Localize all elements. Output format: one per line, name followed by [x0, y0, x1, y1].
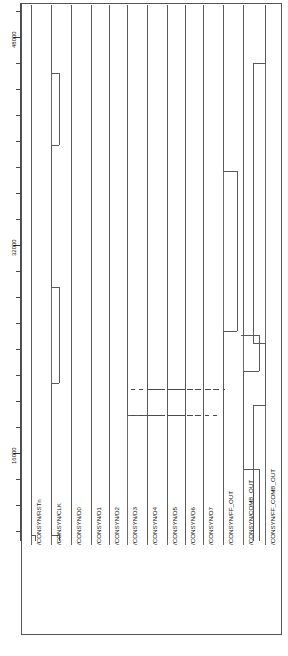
axis-tick: [16, 349, 21, 350]
signal-label-d7: /CONSYN/D7: [207, 507, 214, 545]
level-run: [59, 287, 60, 383]
axis-tick: [16, 531, 21, 532]
transition-edge: [51, 383, 59, 384]
axis-tick: [16, 479, 21, 480]
level-run: [51, 145, 52, 287]
axis-tick-label-48000: 48000: [11, 31, 17, 48]
signal-label-comb-out: /CONSYN/COMB_OUT: [247, 480, 254, 545]
level-run: [243, 371, 244, 469]
signal-label-d1: /CONSYN/D1: [95, 507, 102, 545]
signal-label-d6: /CONSYN/D6: [189, 507, 196, 545]
level-run: [243, 5, 244, 335]
transition-edge: [51, 287, 59, 288]
signal-name-labels: /CONSYN/RSTn /CONSYN/CLK /CONSYN/D0 /CON…: [25, 545, 280, 645]
axis-tick: [16, 375, 21, 376]
level-run: [109, 5, 110, 541]
transition-edge: [253, 405, 266, 406]
axis-tick: [16, 297, 21, 298]
axis-spine: [20, 3, 21, 541]
level-run: [185, 5, 186, 541]
waveform-traces: [25, 5, 280, 541]
signal-label-d2: /CONSYN/D2: [113, 507, 120, 545]
level-run: [51, 383, 52, 535]
level-run: [253, 63, 254, 343]
signal-label-ff-out: /CONSYN/FF_OUT: [227, 491, 234, 545]
axis-tick: [16, 11, 21, 12]
level-run: [71, 5, 72, 541]
level-run: [265, 343, 266, 405]
axis-tick: [16, 271, 21, 272]
signal-label-d4: /CONSYN/D4: [151, 507, 158, 545]
transition-edge: [243, 371, 259, 372]
level-run: [265, 5, 266, 63]
level-run: [223, 5, 224, 171]
time-axis: [17, 3, 21, 541]
signal-label-ff-comb-out: /CONSYN/FF_COMB_OUT: [269, 469, 276, 545]
axis-tick: [16, 141, 21, 142]
axis-tick: [16, 193, 21, 194]
signal-label-d5: /CONSYN/D5: [171, 507, 178, 545]
axis-tick: [16, 63, 21, 64]
level-run: [223, 331, 224, 541]
level-run: [167, 5, 168, 541]
dashed-marker: [207, 389, 225, 390]
axis-tick: [16, 167, 21, 168]
signal-label-rstn: /CONSYN/RSTn: [35, 499, 42, 545]
level-run: [91, 5, 92, 541]
level-run: [127, 5, 128, 415]
level-run: [259, 335, 260, 371]
level-run: [31, 5, 32, 535]
signal-label-clk: /CONSYN/CLK: [55, 503, 62, 545]
level-run: [147, 5, 148, 541]
level-run: [203, 5, 204, 541]
level-run: [259, 469, 260, 541]
axis-tick-label-32000: 32000: [11, 239, 17, 256]
transition-edge: [253, 63, 266, 64]
axis-tick: [16, 219, 21, 220]
level-run: [51, 5, 52, 73]
transition-edge: [51, 145, 59, 146]
dashed-marker: [189, 415, 221, 416]
axis-tick: [16, 427, 21, 428]
level-run: [59, 73, 60, 145]
transition-edge: [223, 331, 237, 332]
axis-tick: [16, 115, 21, 116]
axis-tick: [16, 401, 21, 402]
transition-edge: [51, 73, 59, 74]
axis-tick: [16, 323, 21, 324]
level-run: [237, 171, 238, 331]
axis-tick: [16, 89, 21, 90]
transition-edge: [243, 469, 259, 470]
transition-edge: [241, 335, 259, 336]
signal-label-d0: /CONSYN/D0: [75, 507, 82, 545]
transition-edge: [223, 171, 237, 172]
signal-label-d3: /CONSYN/D3: [131, 507, 138, 545]
axis-tick: [16, 505, 21, 506]
axis-tick-label-16000: 16000: [11, 447, 17, 464]
